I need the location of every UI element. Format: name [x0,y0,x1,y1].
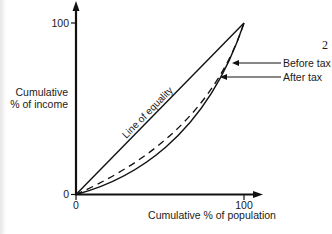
x-tick-label-0: 0 [73,199,79,211]
before-tax-label: Before tax [283,57,332,69]
line-of-equality-label: Line of equality [120,85,175,141]
before-tax-arrow-icon [232,60,239,66]
after-tax-arrow-icon [220,74,227,80]
y-tick-label-0: 0 [63,188,69,200]
page-marker: 2 [322,38,328,52]
x-axis-arrow-icon [253,191,263,198]
x-axis-label: Cumulative % of population [148,209,276,221]
lorenz-chart: 100 0 0 100 Cumulative % of income Cumul… [0,0,332,234]
y-axis-label-line2: % of income [10,98,68,110]
y-axis-arrow-icon [73,1,80,11]
y-tick-label-100: 100 [51,17,69,29]
line-of-equality [76,23,244,195]
y-axis-label-line1: Cumulative [15,86,68,98]
after-tax-label: After tax [283,71,323,83]
